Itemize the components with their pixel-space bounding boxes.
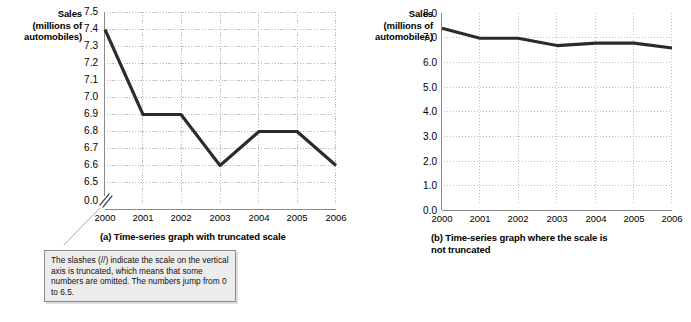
panel-a-caption: (a) Time-series graph with truncated sca… (100, 231, 350, 243)
panel-a-xtick-5: 2005 (277, 213, 317, 223)
panel-b-xtick-0: 2000 (422, 214, 462, 224)
panel-a-xtick-2: 2002 (161, 213, 201, 223)
textbook-figure: Sales (millions of automobiles) 7.5 7.4 … (0, 0, 691, 322)
panel-b-xtick-3: 2003 (537, 214, 577, 224)
panel-b-caption: (b) Time-series graph where the scale is… (431, 232, 681, 256)
panel-a-xtick-1: 2001 (123, 213, 163, 223)
panel-b-caption-line1: (b) Time-series graph where the scale is (431, 232, 681, 244)
panel-b-xtick-5: 2005 (614, 214, 654, 224)
panel-a-axis-break-marker (100, 194, 112, 207)
panel-a-xtick-6: 2006 (316, 213, 356, 223)
panel-a-truncated-chart: Sales (millions of automobiles) 7.5 7.4 … (0, 0, 350, 245)
panel-a-data-line (105, 30, 336, 166)
panel-b-xtick-2: 2002 (498, 214, 538, 224)
panel-a-xtick-3: 2003 (200, 213, 240, 223)
panel-b-untruncated-chart: Sales (millions of automobiles) 8.0 7.0 … (355, 0, 691, 250)
panel-a-xtick-4: 2004 (239, 213, 279, 223)
axis-break-callout: The slashes (//) indicate the scale on t… (44, 250, 236, 302)
panel-b-caption-line2: not truncated (431, 244, 681, 256)
axis-break-callout-text: The slashes (//) indicate the scale on t… (51, 255, 229, 297)
panel-b-xtick-6: 2006 (652, 214, 691, 224)
panel-a-xtick-0: 2000 (85, 213, 125, 223)
panel-b-xtick-4: 2004 (576, 214, 616, 224)
panel-a-plot (0, 0, 350, 245)
panel-b-xtick-1: 2001 (460, 214, 500, 224)
